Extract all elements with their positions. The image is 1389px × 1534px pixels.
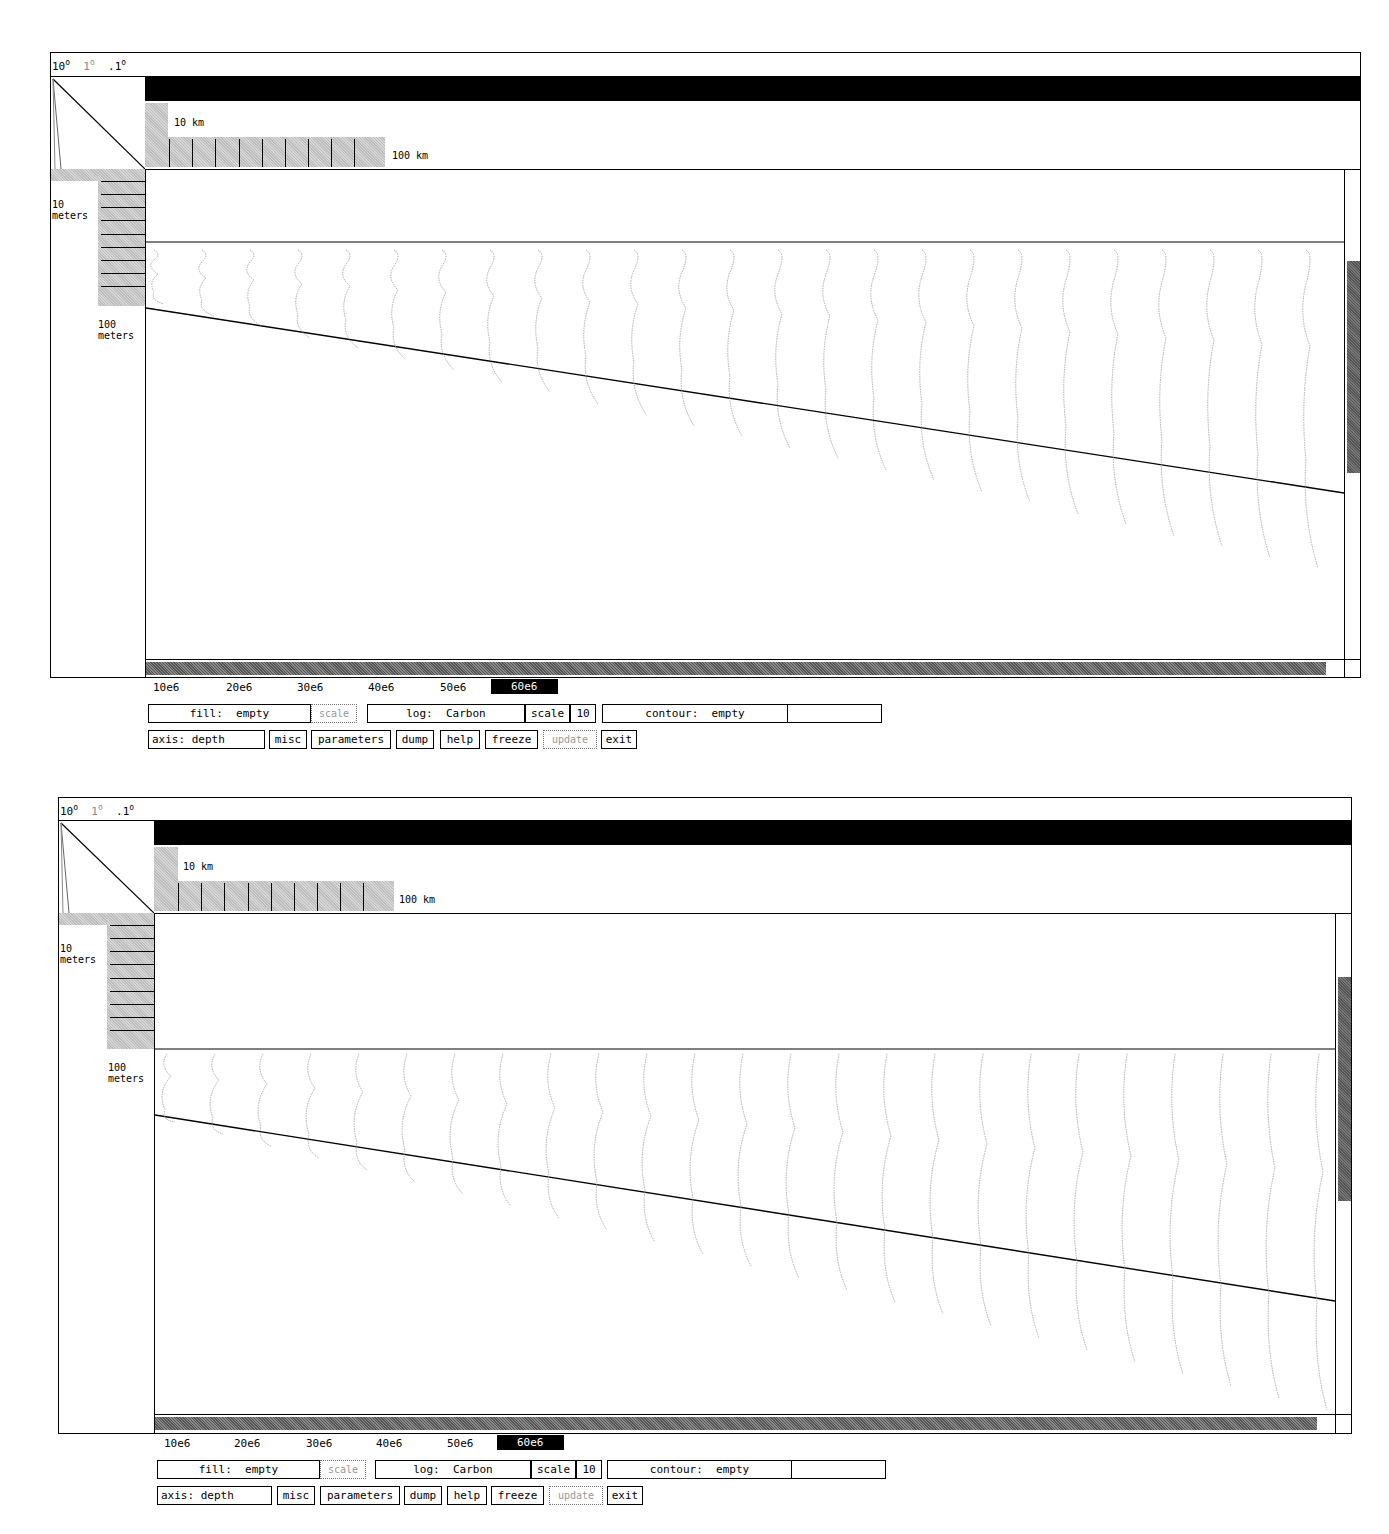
scale-label-100km: 100 km xyxy=(392,150,428,161)
horizontal-scrollbar[interactable] xyxy=(146,659,1344,677)
overview-lines-icon xyxy=(51,77,146,170)
time-10e6[interactable]: 10e6 xyxy=(153,681,180,694)
zoom-1-deg[interactable]: 1o xyxy=(91,805,102,818)
time-60e6-selected[interactable]: 60e6 xyxy=(497,1435,564,1450)
depth-label-100m: 100 meters xyxy=(108,1062,144,1084)
vertical-scrollbar[interactable] xyxy=(1344,170,1360,660)
update-button[interactable]: update xyxy=(549,1486,603,1505)
zoom-1-deg[interactable]: 1o xyxy=(83,60,94,73)
extent-bar xyxy=(154,821,1352,845)
scale-bar-100km xyxy=(145,137,385,167)
log-scale-value[interactable]: 10 xyxy=(576,1460,602,1479)
title-strip xyxy=(154,797,1352,821)
title-strip xyxy=(145,52,1361,77)
contour-selector[interactable]: contour: empty xyxy=(602,704,788,723)
horizontal-scroll-thumb[interactable] xyxy=(146,662,1326,675)
depth-label-100m: 100 meters xyxy=(98,319,134,341)
scale-label-10km: 10 km xyxy=(174,117,204,128)
stratigraphy-cross-section xyxy=(146,170,1361,678)
depth-scale-ruler: 10 meters 100 meters xyxy=(50,169,146,678)
horizontal-scrollbar[interactable] xyxy=(155,1414,1335,1433)
misc-button[interactable]: misc xyxy=(269,730,307,749)
horizontal-scale-ruler: 10 km 100 km xyxy=(154,820,1352,914)
scroll-corner xyxy=(1335,1414,1351,1433)
exit-button[interactable]: exit xyxy=(601,730,637,749)
viewer-panel-top: 10o 1o .1o 10 km 100 km xyxy=(0,0,1389,760)
help-button[interactable]: help xyxy=(447,1486,487,1505)
overview-navigator[interactable] xyxy=(58,820,155,914)
depth-label-10m: 10 meters xyxy=(52,199,88,221)
depth-bar-100m xyxy=(98,169,146,306)
freeze-button[interactable]: freeze xyxy=(491,1486,544,1505)
dump-button[interactable]: dump xyxy=(396,730,434,749)
time-30e6[interactable]: 30e6 xyxy=(297,681,324,694)
scale-bar-100km xyxy=(154,881,394,911)
scroll-corner xyxy=(1344,659,1360,677)
time-40e6[interactable]: 40e6 xyxy=(368,681,395,694)
zoom-level-selector[interactable]: 10o 1o .1o xyxy=(58,797,155,821)
fill-selector[interactable]: fill: empty xyxy=(148,704,311,723)
contour-value-field[interactable] xyxy=(791,1460,886,1479)
horizontal-scroll-thumb[interactable] xyxy=(155,1417,1317,1430)
update-button[interactable]: update xyxy=(543,730,597,749)
parameters-button[interactable]: parameters xyxy=(320,1486,400,1505)
time-30e6[interactable]: 30e6 xyxy=(306,1437,333,1450)
help-button[interactable]: help xyxy=(440,730,480,749)
cross-section-plot[interactable] xyxy=(145,169,1361,678)
exit-button[interactable]: exit xyxy=(607,1486,643,1505)
extent-bar xyxy=(145,77,1361,101)
horizontal-scale-ruler: 10 km 100 km xyxy=(145,76,1361,170)
depth-scale-ruler: 10 meters 100 meters xyxy=(58,913,155,1434)
vertical-scrollbar[interactable] xyxy=(1335,914,1351,1414)
depth-bar-100m xyxy=(107,913,155,1049)
time-60e6-selected[interactable]: 60e6 xyxy=(491,679,558,694)
log-scale-value[interactable]: 10 xyxy=(570,704,596,723)
freeze-button[interactable]: freeze xyxy=(485,730,538,749)
overview-navigator[interactable] xyxy=(50,76,146,170)
stratigraphy-cross-section xyxy=(155,914,1352,1434)
time-40e6[interactable]: 40e6 xyxy=(376,1437,403,1450)
zoom-01-deg[interactable]: .1o xyxy=(116,805,134,818)
time-50e6[interactable]: 50e6 xyxy=(440,681,467,694)
vertical-scroll-thumb[interactable] xyxy=(1338,977,1351,1201)
fill-scale-button[interactable]: scale xyxy=(320,1460,366,1479)
time-axis[interactable]: 10e6 20e6 30e6 40e6 50e6 60e6 xyxy=(145,679,645,697)
fill-selector[interactable]: fill: empty xyxy=(157,1460,320,1479)
dump-button[interactable]: dump xyxy=(404,1486,442,1505)
fill-scale-button[interactable]: scale xyxy=(311,704,357,723)
log-selector[interactable]: log: Carbon xyxy=(375,1460,531,1479)
zoom-01-deg[interactable]: .1o xyxy=(108,60,126,73)
cross-section-plot[interactable] xyxy=(154,913,1352,1434)
contour-selector[interactable]: contour: empty xyxy=(607,1460,792,1479)
zoom-level-selector[interactable]: 10o 1o .1o xyxy=(50,52,146,77)
time-10e6[interactable]: 10e6 xyxy=(164,1437,191,1450)
axis-selector[interactable]: axis: depth xyxy=(148,730,265,749)
time-axis[interactable]: 10e6 20e6 30e6 40e6 50e6 60e6 xyxy=(154,1435,654,1453)
scale-label-10km: 10 km xyxy=(183,861,213,872)
log-scale-button[interactable]: scale xyxy=(525,704,570,723)
time-50e6[interactable]: 50e6 xyxy=(447,1437,474,1450)
depth-label-10m: 10 meters xyxy=(60,943,96,965)
vertical-scroll-thumb[interactable] xyxy=(1347,261,1360,473)
zoom-10-deg[interactable]: 10o xyxy=(52,60,70,73)
log-selector[interactable]: log: Carbon xyxy=(367,704,525,723)
time-20e6[interactable]: 20e6 xyxy=(226,681,253,694)
log-scale-button[interactable]: scale xyxy=(531,1460,576,1479)
zoom-10-deg[interactable]: 10o xyxy=(60,805,78,818)
overview-lines-icon xyxy=(59,821,155,914)
time-20e6[interactable]: 20e6 xyxy=(234,1437,261,1450)
axis-selector[interactable]: axis: depth xyxy=(157,1486,272,1505)
misc-button[interactable]: misc xyxy=(277,1486,315,1505)
scale-label-100km: 100 km xyxy=(399,894,435,905)
contour-value-field[interactable] xyxy=(787,704,882,723)
parameters-button[interactable]: parameters xyxy=(311,730,391,749)
